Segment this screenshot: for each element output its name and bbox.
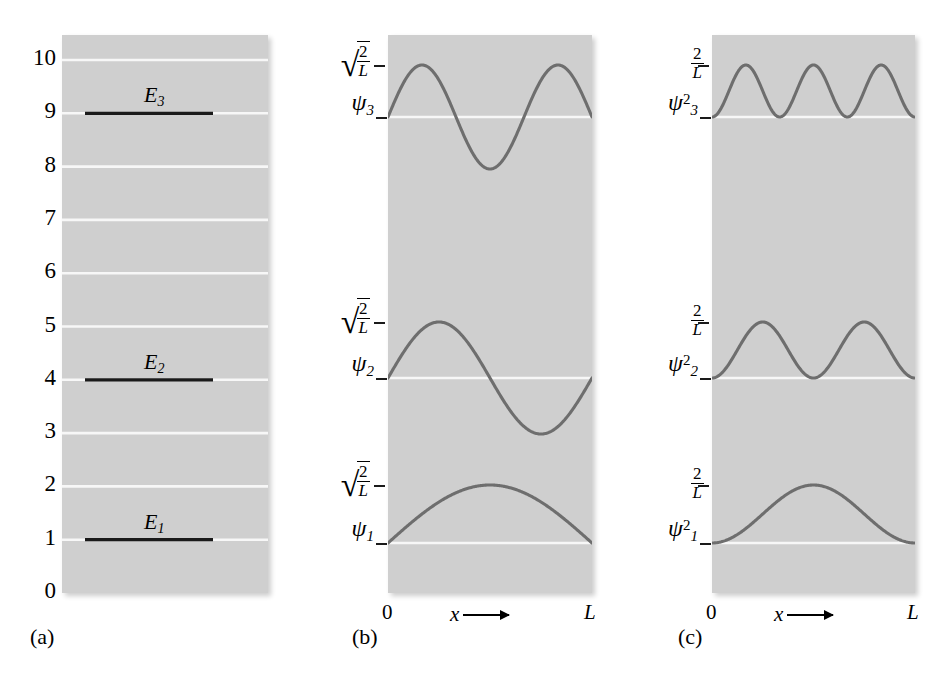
right-arrow-icon: [787, 614, 833, 616]
curve: [712, 485, 915, 543]
amplitude-tick-label-1: 2L: [626, 465, 704, 501]
x-axis-arrow-group: x: [450, 602, 509, 627]
right-arrow-icon: [463, 614, 509, 616]
curve: [388, 485, 592, 543]
panel-a-ytick-9: 9: [4, 99, 56, 122]
caption-a: (a): [30, 624, 54, 650]
panel-a-ytick-10: 10: [4, 46, 56, 69]
baseline-tick-dash: [700, 117, 711, 119]
panel-a-ytick-0: 0: [4, 579, 56, 602]
panel-c-probability-densities: [712, 35, 915, 593]
panel-a-ytick-3: 3: [4, 419, 56, 442]
baseline-tick-dash: [700, 543, 711, 545]
panel-a-ytick-6: 6: [4, 259, 56, 282]
x-axis-variable: x: [774, 602, 783, 627]
x-axis-right-label: L: [584, 600, 596, 625]
amplitude-tick-label-3: 2L: [626, 45, 704, 81]
panel-a-energy-levels: [62, 35, 268, 593]
baseline-label-1: ψ21: [636, 515, 698, 545]
baseline-label-2: ψ22: [636, 350, 698, 380]
x-axis-left-label: 0: [706, 600, 717, 625]
amplitude-tick-dash: [374, 322, 385, 324]
amplitude-tick-label-2: √2L: [292, 300, 370, 338]
panel-a-ytick-7: 7: [4, 206, 56, 229]
caption-b: (b): [352, 624, 378, 650]
baseline-label-3: ψ3: [312, 89, 374, 119]
baseline-tick-dash: [700, 378, 711, 380]
baseline-tick-dash: [376, 543, 387, 545]
baseline-tick-dash: [376, 378, 387, 380]
x-axis-variable: x: [450, 602, 459, 627]
caption-c: (c): [678, 624, 702, 650]
energy-level-label-1: E1: [144, 509, 164, 537]
baseline-label-2: ψ2: [312, 350, 374, 380]
amplitude-tick-dash: [374, 65, 385, 67]
x-axis-left-label: 0: [382, 600, 393, 625]
panel-a-ytick-8: 8: [4, 153, 56, 176]
probability-density-curves: [712, 35, 915, 593]
amplitude-tick-dash: [698, 322, 709, 324]
amplitude-tick-dash: [698, 485, 709, 487]
panel-a-ytick-5: 5: [4, 313, 56, 336]
amplitude-tick-label-2: 2L: [626, 302, 704, 338]
baseline-label-3: ψ23: [636, 89, 698, 119]
curve: [712, 322, 915, 378]
panel-b-wavefunctions: [388, 35, 592, 593]
amplitude-tick-label-1: √2L: [292, 463, 370, 501]
x-axis-arrow-group: x: [774, 602, 833, 627]
wavefunction-curves: [388, 35, 592, 593]
panel-a-ytick-4: 4: [4, 366, 56, 389]
baseline-tick-dash: [376, 117, 387, 119]
panel-a-ytick-1: 1: [4, 526, 56, 549]
baseline-label-1: ψ1: [312, 515, 374, 545]
curve: [712, 65, 915, 117]
panel-a-ytick-2: 2: [4, 472, 56, 495]
amplitude-tick-dash: [374, 485, 385, 487]
amplitude-tick-label-3: √2L: [292, 43, 370, 81]
quantum-well-figure: 109876543210 E3E2E1 √2Lψ3√2Lψ2√2Lψ1 2Lψ2…: [0, 0, 943, 681]
energy-level-grid: [62, 35, 268, 593]
energy-level-label-3: E3: [144, 82, 164, 110]
amplitude-tick-dash: [698, 65, 709, 67]
energy-level-label-2: E2: [144, 349, 164, 377]
x-axis-right-label: L: [907, 600, 919, 625]
